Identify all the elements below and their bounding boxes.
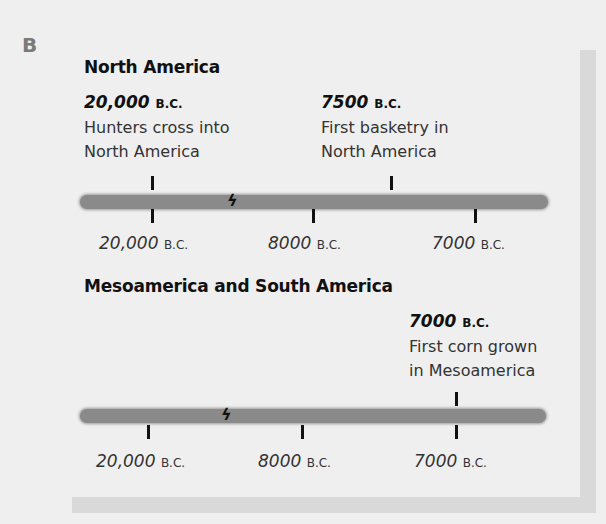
axis-label: 8000 B.C.	[268, 233, 341, 253]
event-first-basketry: 7500 B.C. First basketry in North Americ…	[321, 90, 449, 164]
event-hunters-cross: 20,000 B.C. Hunters cross into North Ame…	[84, 90, 230, 164]
event-description-line2: North America	[84, 140, 230, 164]
event-date: 7000 B.C.	[409, 311, 489, 331]
timeline-bar	[80, 195, 548, 209]
event-tick	[455, 392, 458, 406]
axis-tick	[474, 209, 477, 223]
event-tick	[390, 176, 393, 190]
axis-label: 7000 B.C.	[432, 233, 505, 253]
frame-shadow-bottom	[72, 497, 596, 513]
axis-tick	[455, 425, 458, 439]
timeline-bar	[80, 409, 546, 423]
event-date: 7500 B.C.	[321, 92, 401, 112]
axis-tick	[312, 209, 315, 223]
event-description-line1: Hunters cross into	[84, 116, 230, 140]
axis-tick	[151, 209, 154, 223]
timeline-heading: North America	[84, 57, 220, 77]
axis-label: 20,000 B.C.	[99, 233, 188, 253]
axis-tick	[301, 425, 304, 439]
event-first-corn: 7000 B.C. First corn grown in Mesoameric…	[409, 309, 537, 383]
axis-tick	[147, 425, 150, 439]
event-tick	[151, 176, 154, 190]
axis-label: 7000 B.C.	[414, 451, 487, 471]
event-description-line2: in Mesoamerica	[409, 359, 537, 383]
event-description-line2: North America	[321, 140, 449, 164]
frame-shadow-right	[580, 50, 596, 513]
timeline-heading: Mesoamerica and South America	[84, 276, 393, 296]
axis-label: 20,000 B.C.	[96, 451, 185, 471]
event-date: 20,000 B.C.	[84, 92, 183, 112]
event-description-line1: First corn grown	[409, 335, 537, 359]
event-description-line1: First basketry in	[321, 116, 449, 140]
axis-label: 8000 B.C.	[258, 451, 331, 471]
section-letter: B	[22, 33, 37, 57]
